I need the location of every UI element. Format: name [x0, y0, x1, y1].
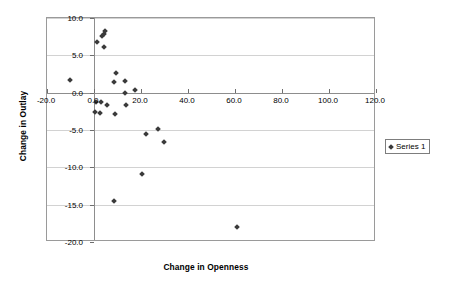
x-axis-tick	[376, 89, 377, 93]
data-point	[97, 110, 103, 116]
x-axis-tick-label: 60.0	[226, 96, 242, 105]
data-point	[143, 132, 149, 138]
y-axis-tick-label: -15.0	[65, 200, 83, 209]
y-axis-tick-label: -5.0	[69, 126, 83, 135]
y-axis-tick-label: 0.0	[72, 88, 83, 97]
data-point	[235, 224, 241, 230]
y-axis-tick	[90, 93, 94, 94]
gridline	[47, 205, 374, 206]
data-point	[101, 44, 107, 50]
x-axis-tick-label: 0.0	[87, 96, 98, 105]
x-axis-tick-label: -20.0	[37, 96, 55, 105]
x-axis-tick	[47, 89, 48, 93]
y-axis	[94, 18, 95, 240]
y-axis-tick-label: -20.0	[65, 238, 83, 247]
x-axis-tick	[235, 89, 236, 93]
x-axis-title: Change in Openness	[36, 262, 376, 272]
gridline	[47, 167, 374, 168]
gridline	[47, 18, 374, 19]
y-axis-tick-label: -10.0	[65, 163, 83, 172]
y-axis-tick	[90, 205, 94, 206]
y-axis-tick	[90, 167, 94, 168]
x-axis-tick	[94, 89, 95, 93]
data-point	[104, 102, 110, 108]
x-axis-tick-label: 20.0	[132, 96, 148, 105]
data-point	[122, 90, 128, 96]
y-axis-tick-label: 10.0	[67, 14, 83, 23]
data-point	[139, 171, 145, 177]
x-axis-tick-label: 120.0	[365, 96, 385, 105]
x-axis-tick	[188, 89, 189, 93]
chart-legend[interactable]: Series 1	[385, 139, 430, 154]
data-point	[112, 111, 118, 117]
gridline	[47, 55, 374, 56]
diamond-marker-icon	[388, 144, 394, 150]
data-point	[155, 126, 161, 132]
data-point	[98, 99, 104, 105]
x-axis-tick-label: 40.0	[179, 96, 195, 105]
gridline	[47, 130, 374, 131]
legend-entry-label: Series 1	[396, 142, 425, 151]
y-axis-tick	[90, 130, 94, 131]
y-axis-tick	[90, 18, 94, 19]
data-point	[132, 87, 138, 93]
data-point	[111, 198, 117, 204]
y-axis-tick	[90, 55, 94, 56]
data-point	[161, 139, 167, 145]
y-axis-title: Change in Outlay	[18, 56, 28, 196]
data-point	[123, 102, 129, 108]
data-point	[122, 79, 128, 85]
x-axis-tick	[141, 89, 142, 93]
x-axis-tick-label: 80.0	[273, 96, 289, 105]
y-axis-tick-label: 5.0	[72, 51, 83, 60]
plot-area: 10.05.00.0-5.0-10.0-15.0-20.0	[46, 17, 375, 241]
scatter-chart: Change in Outlay 10.05.00.0-5.0-10.0-15.…	[0, 0, 452, 291]
data-point	[111, 79, 117, 85]
x-axis-tick-label: 100.0	[318, 96, 338, 105]
gridline	[47, 93, 374, 94]
y-axis-tick	[90, 242, 94, 243]
data-point	[113, 70, 119, 76]
x-axis-tick	[329, 89, 330, 93]
data-point	[67, 77, 73, 83]
x-axis-tick	[282, 89, 283, 93]
